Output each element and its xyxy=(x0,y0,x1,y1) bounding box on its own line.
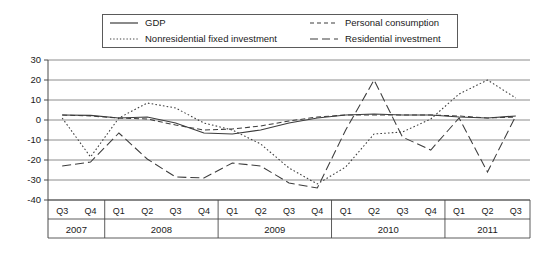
x-axis-quarter-label: Q1 xyxy=(113,206,125,216)
plot-area: 3020100-10-20-30-40Q3Q4Q1Q2Q3Q4Q1Q2Q3Q4Q… xyxy=(0,0,551,259)
x-axis-year-label: 2007 xyxy=(66,224,87,235)
x-axis-quarter-label: Q1 xyxy=(226,206,238,216)
y-axis-tick-label: -40 xyxy=(27,194,41,205)
x-axis-quarter-label: Q3 xyxy=(56,206,68,216)
series-line-residential-investment xyxy=(62,80,516,188)
x-axis-quarter-label: Q3 xyxy=(510,206,522,216)
x-axis-quarter-label: Q3 xyxy=(283,206,295,216)
y-axis-tick-label: -30 xyxy=(27,174,41,185)
x-axis-year-label: 2009 xyxy=(264,224,285,235)
x-axis-year-label: 2011 xyxy=(477,224,497,235)
x-axis-quarter-label: Q2 xyxy=(481,206,493,216)
y-axis-tick-label: 10 xyxy=(30,94,41,105)
x-axis-quarter-label: Q4 xyxy=(198,206,210,216)
x-axis-quarter-label: Q2 xyxy=(368,206,380,216)
x-axis-quarter-label: Q2 xyxy=(255,206,267,216)
x-axis-quarter-label: Q1 xyxy=(340,206,352,216)
y-axis-tick-label: 0 xyxy=(36,114,41,125)
y-axis-tick-label: -20 xyxy=(27,154,41,165)
quarterly-growth-chart: GDP Personal consumption Nonresidential … xyxy=(0,0,551,259)
x-axis-quarter-label: Q2 xyxy=(141,206,153,216)
x-axis-quarter-label: Q3 xyxy=(396,206,408,216)
y-axis-tick-label: -10 xyxy=(27,134,41,145)
x-axis-quarter-label: Q4 xyxy=(425,206,437,216)
x-axis-quarter-label: Q4 xyxy=(85,206,97,216)
series-line-nonresidential-fixed-investment xyxy=(62,80,516,184)
y-axis-tick-label: 30 xyxy=(30,54,41,65)
x-axis-quarter-label: Q4 xyxy=(311,206,323,216)
x-axis-year-label: 2008 xyxy=(151,224,172,235)
y-axis-tick-label: 20 xyxy=(30,74,41,85)
x-axis-quarter-label: Q3 xyxy=(170,206,182,216)
x-axis-quarter-label: Q1 xyxy=(453,206,465,216)
x-axis-year-label: 2010 xyxy=(378,224,399,235)
